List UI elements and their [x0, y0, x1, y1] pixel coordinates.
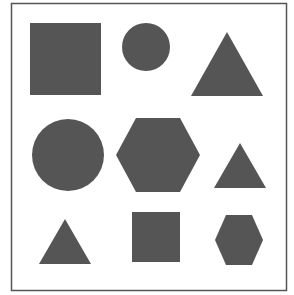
shape-large-circle: [32, 119, 104, 191]
shape-small-circle: [122, 23, 170, 71]
shapes-figure: [0, 0, 294, 295]
shape-large-square: [30, 23, 101, 95]
shape-small-square: [132, 212, 180, 262]
